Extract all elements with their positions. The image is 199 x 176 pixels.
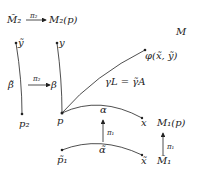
label-alpha-tilde: α̃ [99,145,106,155]
label-x-tilde: x̃ [141,156,147,166]
label-y-tilde: ỹ [18,38,24,48]
point-y-tilde [15,42,18,45]
label-pi1-right: π₁ [167,142,174,152]
label-M: M [176,27,186,37]
label-p: p [57,116,63,126]
beta-curve [57,43,62,113]
label-p1-tilde: p̃₁ [57,155,67,165]
point-p1-tilde [61,149,64,152]
label-gamma: γL = γ̃A [105,77,146,87]
label-alpha-top: α [100,105,107,115]
label-pi2-mid: π₂ [33,74,40,84]
point-y [56,42,59,45]
label-M1p: M₁(p) [157,118,185,128]
label-p2: p₂ [19,119,29,129]
label-beta: β [51,80,57,90]
label-pi1-mid: π₁ [107,128,114,138]
label-pi2-top: π₂ [30,11,37,21]
label-M2p: M₂(p) [49,15,77,25]
label-M2-tilde: M̃₂ [7,15,21,25]
point-p2 [21,113,24,116]
label-M1-tilde: M̃₁ [157,156,171,166]
beta-tilde-curve [16,43,22,114]
label-x: x [141,118,147,128]
label-beta-tilde: β̃ [8,80,14,90]
label-y: y [59,38,65,48]
label-phi: φ(x̃, ỹ) [145,51,177,61]
